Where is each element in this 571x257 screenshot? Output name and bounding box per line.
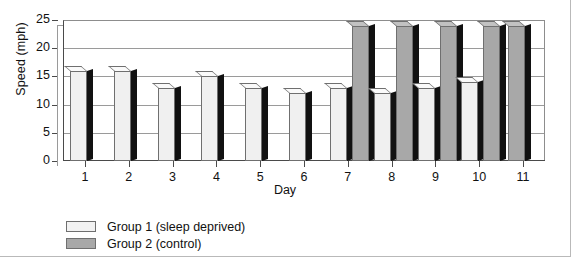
x-tick-label-day-4: 4 bbox=[196, 170, 236, 184]
bar-side-face bbox=[218, 74, 224, 161]
bar-front-face bbox=[461, 82, 478, 161]
x-tick-label-day-9: 9 bbox=[415, 170, 455, 184]
plot-area bbox=[63, 20, 545, 161]
bar-group1-day-6 bbox=[289, 93, 306, 161]
legend-swatch-2 bbox=[66, 238, 96, 249]
bar-front-face bbox=[70, 71, 87, 161]
x-tick-mark bbox=[129, 161, 130, 167]
bar-group2-day-7 bbox=[352, 26, 369, 161]
y-tick-label: 0 bbox=[20, 153, 50, 167]
bar-group1-day-2 bbox=[114, 71, 131, 161]
bar-group1-day-4 bbox=[201, 76, 218, 161]
y-tick-label: 25 bbox=[20, 12, 50, 26]
x-tick-mark bbox=[435, 161, 436, 167]
bar-group1-day-5 bbox=[245, 88, 262, 161]
bar-chart-figure: Speed (mph) 0510152025 1234567891011 Day… bbox=[0, 0, 571, 257]
x-tick-label-day-10: 10 bbox=[459, 170, 499, 184]
bar-group1-day-1 bbox=[70, 71, 87, 161]
bar-front-face bbox=[396, 26, 413, 161]
bar-side-face bbox=[262, 86, 268, 161]
bar-group1-day-9 bbox=[418, 88, 435, 161]
legend-item-2: Group 2 (control) bbox=[66, 236, 245, 251]
x-tick-mark bbox=[348, 161, 349, 167]
bar-side-face bbox=[175, 86, 181, 161]
bar-front-face bbox=[158, 88, 175, 161]
bar-front-face bbox=[330, 88, 347, 161]
bar-side-face bbox=[500, 24, 506, 161]
bar-group2-day-8 bbox=[396, 26, 413, 161]
legend-swatch-1 bbox=[66, 221, 96, 232]
bar-front-face bbox=[374, 93, 391, 161]
bar-front-face bbox=[352, 26, 369, 161]
x-tick-mark bbox=[479, 161, 480, 167]
y-tick-mark bbox=[52, 20, 58, 21]
bar-front-face bbox=[114, 71, 131, 161]
bar-side-face bbox=[87, 69, 93, 161]
y-tick-label: 20 bbox=[20, 40, 50, 54]
x-tick-label-day-6: 6 bbox=[284, 170, 324, 184]
x-tick-label-day-8: 8 bbox=[372, 170, 412, 184]
chart-legend: Group 1 (sleep deprived)Group 2 (control… bbox=[66, 219, 245, 253]
x-tick-mark bbox=[523, 161, 524, 167]
legend-item-1: Group 1 (sleep deprived) bbox=[66, 219, 245, 234]
bar-group1-day-10 bbox=[461, 82, 478, 161]
bar-side-face bbox=[131, 69, 137, 161]
y-tick-label: 10 bbox=[20, 97, 50, 111]
y-tick-label: 15 bbox=[20, 68, 50, 82]
bar-side-face bbox=[525, 24, 531, 161]
bar-front-face bbox=[245, 88, 262, 161]
bar-front-face bbox=[440, 26, 457, 161]
bar-group1-day-7 bbox=[330, 88, 347, 161]
x-tick-mark bbox=[173, 161, 174, 167]
bar-group1-day-3 bbox=[158, 88, 175, 161]
bar-group2-day-10 bbox=[483, 26, 500, 161]
bar-group2-day-11 bbox=[508, 26, 525, 161]
bar-front-face bbox=[483, 26, 500, 161]
bar-side-face bbox=[306, 91, 312, 161]
x-tick-mark bbox=[260, 161, 261, 167]
x-tick-label-day-3: 3 bbox=[153, 170, 193, 184]
bar-front-face bbox=[508, 26, 525, 161]
bar-front-face bbox=[289, 93, 306, 161]
bar-group1-day-8 bbox=[374, 93, 391, 161]
bar-front-face bbox=[418, 88, 435, 161]
x-tick-mark bbox=[304, 161, 305, 167]
x-tick-label-day-2: 2 bbox=[109, 170, 149, 184]
legend-label-2: Group 2 (control) bbox=[107, 237, 201, 251]
x-tick-mark bbox=[216, 161, 217, 167]
bar-group2-day-9 bbox=[440, 26, 457, 161]
legend-label-1: Group 1 (sleep deprived) bbox=[107, 220, 245, 234]
x-tick-label-day-5: 5 bbox=[240, 170, 280, 184]
x-tick-label-day-7: 7 bbox=[328, 170, 368, 184]
bar-front-face bbox=[201, 76, 218, 161]
x-tick-mark bbox=[85, 161, 86, 167]
y-tick-label: 5 bbox=[20, 125, 50, 139]
x-tick-label-day-11: 11 bbox=[503, 170, 543, 184]
x-tick-label-day-1: 1 bbox=[65, 170, 105, 184]
x-tick-mark bbox=[392, 161, 393, 167]
x-axis-title: Day bbox=[0, 183, 570, 197]
